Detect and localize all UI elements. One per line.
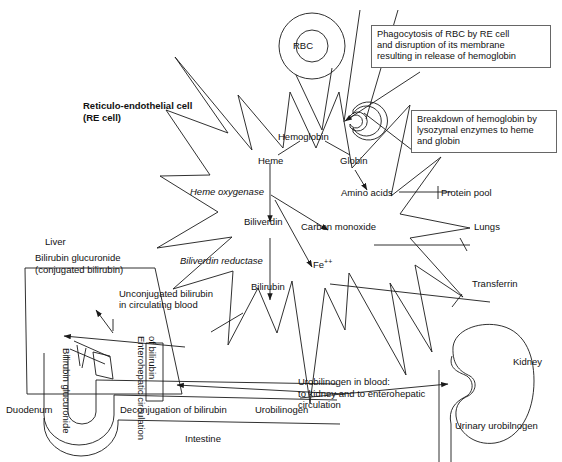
label-biliverdin-reductase: Biliverdin reductase xyxy=(180,255,263,267)
phagocytosis-arrow xyxy=(345,72,420,121)
liver-outline xyxy=(25,268,182,394)
diagram-canvas: RBC Reticulo-endothelial cell (RE cell) … xyxy=(0,0,562,462)
label-iron-symbol: Fe xyxy=(313,259,324,270)
label-deconjugation: Deconjugation of bilirubin xyxy=(120,404,227,416)
label-unconjugated-bilirubin-line2: in circulating blood xyxy=(119,299,198,311)
disrupted-rbc-outer xyxy=(353,102,387,140)
label-urobilinogen-in-blood: Urobilinogen in blood: to kidney and to … xyxy=(298,376,425,411)
intestine-outer-wall xyxy=(44,353,337,445)
label-bile-bilirubin-glucuronide: Bilirubin glucuronide xyxy=(61,348,72,434)
label-heme: Heme xyxy=(258,155,283,167)
label-transferrin: Transferrin xyxy=(472,278,518,290)
arrow-iron-to-transferrin xyxy=(330,284,490,302)
transferrin-endbar xyxy=(452,294,462,307)
label-iron-charge: ++ xyxy=(324,258,332,265)
label-globin: Globin xyxy=(340,155,367,167)
arrow-liver-to-circulation xyxy=(64,336,185,347)
arrow-blood-to-liver xyxy=(96,310,113,333)
re-cell-label-line2: (RE cell) xyxy=(83,112,121,124)
label-kidney: Kidney xyxy=(513,356,542,368)
arrow-hemoglobin-to-heme xyxy=(278,141,300,155)
arrow-heme-to-iron xyxy=(275,200,312,267)
label-biliverdin: Biliverdin xyxy=(244,216,283,228)
arrow-hemoglobin-to-globin xyxy=(325,141,350,155)
label-bilirubin-glucuronide-line1: Bilirubin glucuronide xyxy=(35,252,121,264)
label-enterohepatic-line2: of bilirubin xyxy=(147,336,158,379)
callout-phagocytosis: Phagocytosis of RBC by RE cell and disru… xyxy=(371,25,551,68)
label-iron: Fe++ xyxy=(313,256,332,271)
label-bilirubin-glucuronide-line2: (conjugated bilirubin) xyxy=(35,264,123,276)
label-urinary-urobilinogen: Urinary urobilnogen xyxy=(455,420,538,432)
label-liver: Liver xyxy=(45,236,66,248)
bile-duct-opening xyxy=(93,352,113,379)
label-heme-oxygenase: Heme oxygenase xyxy=(190,186,264,198)
bilirubin-to-blood-leader xyxy=(211,313,243,332)
bile-duct-wall-right xyxy=(70,349,105,364)
label-protein-pool: Protein pool xyxy=(441,187,492,199)
label-hemoglobin: Hemoglobin xyxy=(278,131,329,143)
label-bilirubin: Bilirubin xyxy=(251,281,285,293)
bile-duct-branch-2 xyxy=(82,348,86,368)
callout-breakdown: Breakdown of hemoglobin by lysozymal enz… xyxy=(411,110,557,153)
rbc-label: RBC xyxy=(293,40,313,52)
label-lungs: Lungs xyxy=(474,221,500,233)
label-intestine: Intestine xyxy=(185,433,221,445)
kidney-pelvis xyxy=(450,356,472,424)
re-cell-label-line1: Reticulo-endothelial cell xyxy=(83,100,192,112)
bile-duct-branch-1 xyxy=(77,345,80,366)
label-amino-acids: Amino acids xyxy=(341,187,393,199)
lungs-endbar xyxy=(460,238,467,251)
label-unconjugated-bilirubin-line1: Unconjugated bilirubin xyxy=(119,288,213,300)
label-enterohepatic-line1: Enterohepatic circulation xyxy=(136,336,147,440)
label-carbon-monoxide: Carbon monoxide xyxy=(301,221,376,233)
label-duodenum: Duodenum xyxy=(6,404,52,416)
